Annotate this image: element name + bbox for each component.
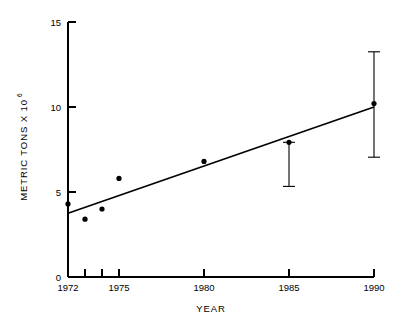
x-axis-ticks-major [68,269,374,277]
x-ticklabel-1990: 1990 [363,282,384,293]
x-ticklabel-1975: 1975 [108,282,129,293]
y-axis-ticks [68,22,76,192]
x-axis-ticks-minor [85,269,102,277]
x-axis-title: YEAR [196,303,225,314]
chart-figure: 15 10 5 0 1972 1975 1980 1985 1990 YEAR … [0,0,400,323]
y-axis-title-exponent: 6 [16,93,23,97]
data-point-1990 [371,101,376,106]
x-ticklabel-1985: 1985 [278,282,299,293]
error-bar-1985 [283,142,295,186]
trend-line [68,107,374,213]
y-ticklabel-5: 5 [56,187,61,198]
y-ticklabel-15: 15 [50,17,61,28]
data-point-1985 [286,140,291,145]
y-axis-title-group: METRIC TONS X 10 6 [16,93,29,201]
data-point-1974 [99,206,104,211]
data-point-1972 [65,201,70,206]
x-ticklabel-1972: 1972 [57,282,78,293]
data-point-1973 [82,217,87,222]
data-point-1980 [201,159,206,164]
scatter-plot-canvas: 15 10 5 0 1972 1975 1980 1985 1990 YEAR … [0,0,400,323]
y-axis-title: METRIC TONS X 10 [18,99,29,201]
y-ticklabel-10: 10 [50,102,61,113]
x-ticklabel-1980: 1980 [193,282,214,293]
data-point-1975 [116,176,121,181]
